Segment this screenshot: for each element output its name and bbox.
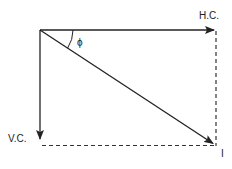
resultant-label: I bbox=[221, 148, 224, 159]
angle-arc bbox=[68, 30, 73, 48]
angle-label: ϕ bbox=[77, 37, 83, 48]
phasor-diagram: ϕ H.C. V.C. I bbox=[0, 0, 232, 169]
horizontal-component-label: H.C. bbox=[199, 10, 219, 21]
vertical-component-label: V.C. bbox=[8, 133, 27, 144]
resultant-arrow bbox=[40, 30, 213, 144]
